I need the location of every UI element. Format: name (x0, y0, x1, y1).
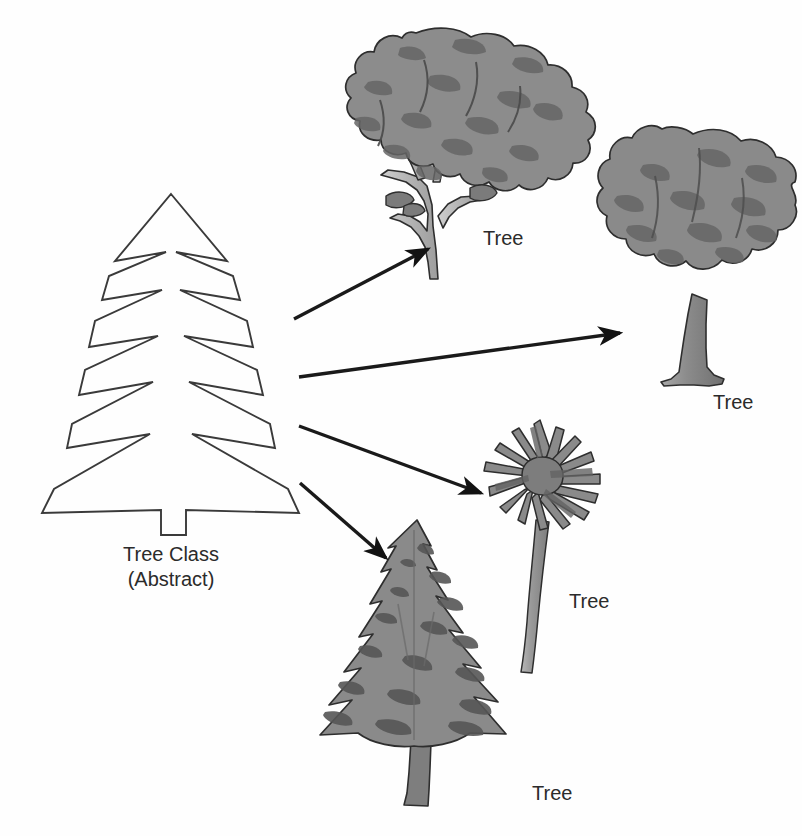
diagram-canvas: Tree Class (Abstract) (0, 0, 802, 836)
round-canopy-tree-label: Tree (713, 391, 753, 413)
pine-trunk (404, 740, 431, 806)
arrow-to-deciduous-broadleaf-tree (294, 249, 428, 319)
palm-tree-node[interactable]: Tree (484, 420, 609, 673)
arrow-to-palm-tree (299, 426, 481, 493)
tree-class-abstract-label-line2: (Abstract) (128, 568, 215, 590)
deciduous-broadleaf-tree-node[interactable]: Tree (346, 28, 596, 279)
tree-class-abstract-node[interactable]: Tree Class (Abstract) (42, 194, 299, 590)
tree-class-abstract-label-line1: Tree Class (123, 543, 219, 565)
round-canopy-tree-node[interactable]: Tree (597, 126, 796, 413)
deciduous-broadleaf-tree-label: Tree (483, 227, 523, 249)
palm-trunk (521, 520, 549, 673)
round-canopy-trunk (661, 294, 724, 386)
pine-fir-tree-label: Tree (532, 782, 572, 804)
arrow-to-pine-fir-tree (300, 483, 386, 558)
arrow-to-round-canopy-tree (299, 333, 620, 377)
deciduous-trunk (381, 170, 438, 279)
diagram-svg: Tree Class (Abstract) (0, 0, 802, 836)
conifer-outline-shape (42, 194, 299, 535)
palm-tree-label: Tree (569, 590, 609, 612)
